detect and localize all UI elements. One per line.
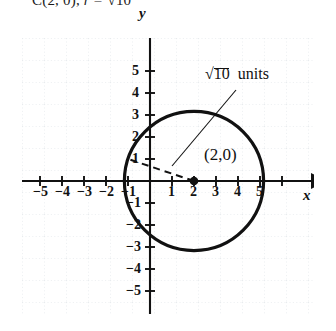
y-tick-label--1: −1	[126, 196, 141, 210]
y-tick-label-3: 3	[132, 108, 139, 122]
x-tick-label--3: −3	[77, 185, 92, 199]
annotation-units-word: units	[238, 65, 269, 82]
coordinate-plane: −5 −4 −3 −2 −1 1 2 3 4 5 5 4 3 2 1 −1 −2…	[22, 38, 314, 314]
annotation-radical-sign: √	[205, 65, 214, 82]
y-tick-label-5: 5	[132, 64, 139, 78]
heading-equation: C(2, 0), r = √10	[32, 0, 131, 9]
figure-canvas: C(2, 0), r = √10	[0, 0, 336, 331]
heading-center-part: C(2, 0),	[32, 0, 80, 8]
heading-radical: √10	[106, 0, 131, 9]
x-tick-label-1: 1	[168, 185, 175, 199]
radical-sign: √	[107, 0, 115, 8]
center-point-label: (2,0)	[204, 146, 237, 163]
x-tick-label-2: 2	[190, 185, 197, 199]
y-tick-label--4: −4	[126, 262, 141, 276]
x-tick-label--4: −4	[55, 185, 70, 199]
x-tick-label--2: −2	[99, 185, 114, 199]
heading-equals: =	[94, 0, 103, 8]
background-grid	[22, 38, 314, 314]
radius-annotation-label: √10 units	[205, 66, 269, 82]
x-tick-label-4: 4	[234, 185, 241, 199]
radical-group: √10	[205, 66, 230, 82]
x-tick-label--5: −5	[33, 185, 48, 199]
y-tick-label-2: 2	[132, 130, 139, 144]
heading-r-symbol: r	[84, 0, 90, 8]
y-tick-label--2: −2	[126, 218, 141, 232]
graph-svg	[22, 38, 314, 314]
x-tick-label-5: 5	[256, 185, 263, 199]
radicand: 10	[116, 0, 131, 8]
x-tick-label-3: 3	[212, 185, 219, 199]
y-tick-label--3: −3	[126, 240, 141, 254]
y-tick-label-4: 4	[132, 86, 139, 100]
y-tick-label-1: 1	[132, 152, 139, 166]
annotation-overbar	[214, 68, 229, 69]
y-axis-label: y	[139, 6, 146, 21]
x-axis-label: x	[303, 188, 311, 203]
y-tick-label--5: −5	[126, 284, 141, 298]
